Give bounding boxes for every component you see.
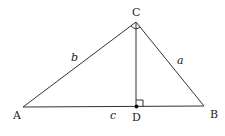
side-b-line bbox=[23, 22, 136, 107]
side-c-line bbox=[23, 106, 204, 107]
vertex-label-d: D bbox=[132, 111, 141, 124]
vertex-label-b: B bbox=[210, 108, 218, 121]
point-d bbox=[135, 105, 139, 109]
side-label-b: b bbox=[71, 51, 78, 64]
vertex-label-a: A bbox=[12, 109, 22, 122]
side-label-a: a bbox=[177, 54, 184, 67]
vertex-label-c: C bbox=[132, 6, 140, 19]
side-label-c: c bbox=[110, 109, 116, 122]
triangle-diagram: C A B D b a c bbox=[0, 0, 225, 136]
side-a-line bbox=[136, 22, 204, 106]
